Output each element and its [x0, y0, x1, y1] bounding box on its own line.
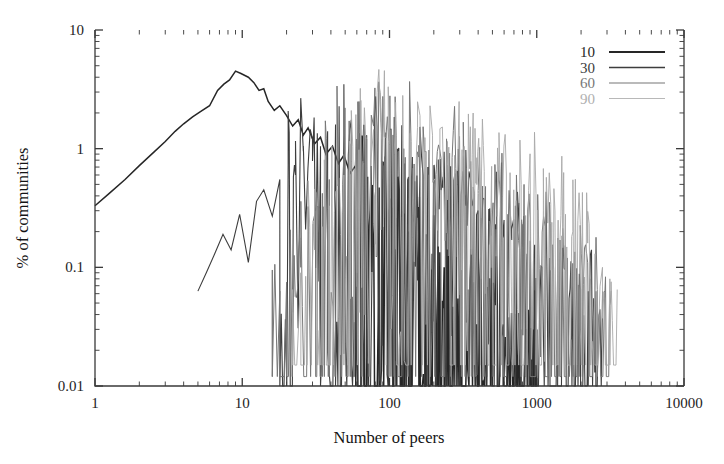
x-axis-title: Number of peers	[334, 428, 445, 447]
series-lines	[95, 69, 617, 386]
y-tick-label: 0.1	[65, 259, 84, 275]
y-tick-label: 10	[69, 22, 84, 38]
x-tick-label: 100	[378, 395, 401, 411]
x-tick-label: 10000	[665, 395, 703, 411]
legend-label-60: 60	[580, 75, 595, 91]
x-tick-label: 1	[91, 395, 99, 411]
peers-distribution-chart: 1101001000100000.010.1110 10306090 Numbe…	[0, 0, 724, 464]
chart-legend: 10306090	[580, 44, 665, 107]
y-tick-label: 1	[77, 141, 85, 157]
legend-label-30: 30	[580, 60, 595, 76]
x-tick-label: 10	[235, 395, 250, 411]
legend-label-10: 10	[580, 44, 595, 60]
legend-label-90: 90	[580, 91, 595, 107]
y-tick-label: 0.01	[58, 378, 84, 394]
x-tick-label: 1000	[522, 395, 552, 411]
y-axis-title: % of communities	[13, 148, 32, 269]
chart-page: 1101001000100000.010.1110 10306090 Numbe…	[0, 0, 724, 464]
